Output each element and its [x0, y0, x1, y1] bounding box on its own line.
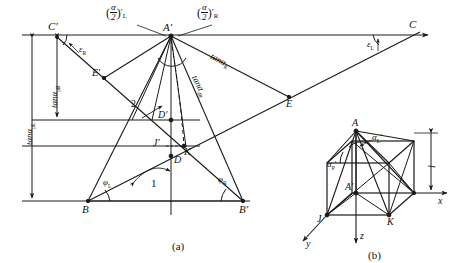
dim-label-inner: tanαpR	[50, 85, 61, 108]
diag-mid-2	[356, 193, 389, 215]
dot-J	[325, 213, 329, 217]
axis-label-x: x	[438, 196, 442, 206]
dot-Aprime	[169, 34, 173, 38]
point-label-C: C	[409, 19, 416, 30]
label-half-alpha-left: (α2)′L	[106, 3, 127, 22]
angle-arc-phi-R	[221, 189, 226, 201]
ray-Aprime-to-Dprime	[152, 36, 171, 120]
dot-Dprime	[169, 118, 173, 122]
point-label-A-cube: A	[352, 118, 358, 128]
callout-label-2: 2	[131, 99, 136, 109]
ray-Aprime-to-E	[171, 36, 289, 97]
point-label-E: E	[286, 99, 292, 109]
point-label-A-prime-cube: A′	[345, 182, 353, 192]
label-phi-left: φL	[103, 178, 111, 189]
point-label-B-prime: B′	[239, 204, 248, 215]
point-label-E-prime: E′	[92, 68, 100, 78]
angle-arc-halfalpha	[158, 58, 186, 66]
label-half-alpha-right: (α2)′R	[197, 3, 218, 22]
point-label-D: D	[174, 155, 181, 165]
point-label-C-prime: C′	[48, 21, 58, 32]
leader-halfalpha-left	[137, 25, 166, 36]
label-alpha-L-prime: αL′	[372, 133, 382, 144]
dot-backBR	[412, 191, 415, 194]
label-phi-right: φR	[218, 175, 227, 186]
caption-b: (b)	[368, 250, 381, 261]
callout-label-1: 1	[151, 178, 157, 189]
leader-halfalpha-right	[178, 25, 212, 36]
point-label-A-prime: A′	[163, 22, 172, 33]
label-epsilon-left: εL	[367, 40, 374, 51]
axis-label-y: y	[306, 239, 310, 249]
figure-root: (α2)′L (α2)′R C′ A′ C εR εL E′ E tanαR t…	[0, 0, 455, 263]
point-label-B: B	[82, 204, 89, 215]
point-label-D-prime: D′	[158, 110, 167, 120]
axis-label-z: z	[360, 231, 364, 241]
dot-Cprime	[56, 36, 59, 39]
dim-label-l: l	[427, 165, 437, 168]
dot-D	[169, 154, 173, 158]
point-label-K-cube: K	[387, 217, 394, 227]
point-label-J-prime: J′	[153, 138, 160, 148]
dim-label-outer: tanαpL	[25, 123, 36, 145]
dashed-arc-Aprime-K	[171, 40, 184, 146]
label-epsilon-right: εR	[79, 45, 86, 56]
label-alpha-P-prime: αP′	[327, 160, 337, 171]
caption-a: (a)	[172, 241, 184, 252]
dot-Eprime	[102, 76, 105, 79]
point-label-K: K	[184, 147, 191, 157]
dot-Aprime-cube	[354, 191, 358, 195]
panel-b-geometry	[303, 129, 447, 243]
angle-arc-alphaP-prime	[340, 152, 343, 163]
point-label-J-cube: J	[317, 214, 321, 224]
